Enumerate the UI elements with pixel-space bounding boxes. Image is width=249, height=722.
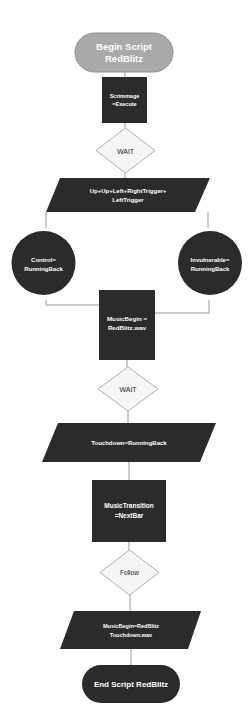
touchdown-data: Touchdown=RunningBack <box>42 423 216 462</box>
music-touchdown-data: MusicBegin=RedBlitz Touchdown.wav <box>60 611 201 649</box>
end-script-terminal: End Script RedBlitz <box>82 665 180 703</box>
music-begin-line1: MusicBegin = <box>107 315 147 322</box>
connector-control-musicbegin <box>46 300 99 305</box>
wait-decision-1: WAIT <box>96 128 155 173</box>
wait1-label: WAIT <box>117 148 135 155</box>
music-transition-line1: MusicTransition <box>104 502 154 509</box>
touchdown-label: Touchdown=RunningBack <box>91 440 167 446</box>
control-line1: Control= <box>31 257 56 263</box>
invulnerable-circle: Invulnerable= RunningBack <box>178 231 242 295</box>
scrimmage-process: Scrimmage =Execute <box>102 77 147 123</box>
music-touchdown-line2: Touchdown.wav <box>110 632 153 638</box>
input-combo-line2: LeftTrigger <box>112 197 144 203</box>
control-circle: Control= RunningBack <box>12 231 76 295</box>
invulnerable-line1: Invulnerable= <box>191 257 230 263</box>
input-combo-data: Up+Up+Left+RightTrigger+ LeftTrigger <box>46 178 210 212</box>
end-label: End Script RedBlitz <box>94 680 168 689</box>
wait2-label: WAIT <box>119 386 137 393</box>
input-combo-line1: Up+Up+Left+RightTrigger+ <box>90 188 167 194</box>
music-transition-process: MusicTransition =NextBar <box>92 480 166 542</box>
scrimmage-label-line1: Scrimmage <box>110 93 140 99</box>
begin-script-terminal: Begin Script RedBlitz <box>75 33 173 72</box>
follow-label: Follow <box>120 569 139 576</box>
flowchart-canvas: Begin Script RedBlitz Scrimmage =Execute… <box>0 0 249 722</box>
music-transition-line2: =NextBar <box>115 512 144 519</box>
follow-decision: Follow <box>100 550 159 595</box>
music-begin-process: MusicBegin = RedBlitz.wav <box>99 290 155 360</box>
music-begin-line2: RedBlitz.wav <box>108 324 147 331</box>
scrimmage-label-line2: =Execute <box>112 101 136 107</box>
music-touchdown-line1: MusicBegin=RedBlitz <box>103 623 159 629</box>
begin-label-line1: Begin Script <box>96 41 153 52</box>
connector-invulnerable-musicbegin <box>155 300 209 313</box>
invulnerable-line2: RunningBack <box>191 266 230 272</box>
control-line2: RunningBack <box>24 266 63 272</box>
begin-label-line2: RedBlitz <box>105 53 143 64</box>
wait-decision-2: WAIT <box>98 367 158 411</box>
